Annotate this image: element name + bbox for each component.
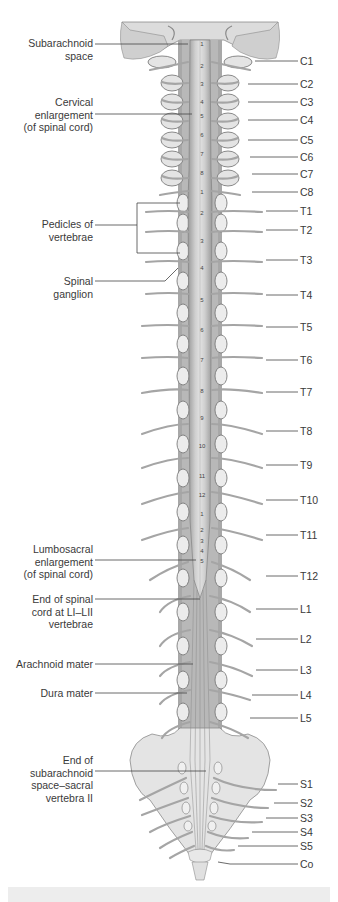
nerve-label-t1: T1 <box>300 205 312 218</box>
nerve-label-t9: T9 <box>300 459 312 472</box>
label-line: Arachnoid mater <box>16 658 93 671</box>
nerve-label-c5: C5 <box>300 134 313 147</box>
nerve-label-t2: T2 <box>300 224 312 237</box>
label-cervical-enlargement: Cervical enlargement (of spinal cord) <box>24 96 93 134</box>
svg-text:11: 11 <box>199 473 206 479</box>
nerve-label-s4: S4 <box>300 826 313 839</box>
label-line: vertebrae <box>32 618 93 631</box>
label-line: vertebrae <box>42 231 93 244</box>
label-line: space–sacral <box>30 779 93 792</box>
label-subarachnoid-space: Subarachnoid space <box>28 37 93 62</box>
label-line: vertebra II <box>30 792 93 805</box>
nerve-label-c2: C2 <box>300 78 313 91</box>
label-line: space <box>28 50 93 63</box>
nerve-label-c3: C3 <box>300 96 313 109</box>
nerve-label-l3: L3 <box>300 664 312 677</box>
label-dura-mater: Dura mater <box>40 687 93 700</box>
nerve-label-l1: L1 <box>300 603 312 616</box>
label-line: Subarachnoid <box>28 37 93 50</box>
nerve-label-t10: T10 <box>300 494 318 507</box>
svg-text:10: 10 <box>199 443 206 449</box>
label-line: End of spinal <box>32 593 93 606</box>
nerve-label-t11: T11 <box>300 529 317 542</box>
nerve-label-l2: L2 <box>300 633 312 646</box>
label-line: (of spinal cord) <box>24 568 93 581</box>
label-line: End of <box>30 754 93 767</box>
nerve-label-s2: S2 <box>300 797 313 810</box>
nerve-label-s1: S1 <box>300 778 313 791</box>
nerve-label-t6: T6 <box>300 354 312 367</box>
label-line: (of spinal cord) <box>24 121 93 134</box>
caption-bar <box>8 887 330 902</box>
nerve-label-c8: C8 <box>300 186 313 199</box>
label-spinal-ganglion: Spinal ganglion <box>53 275 93 300</box>
nerve-label-co: Co <box>300 858 313 871</box>
spinal-cord-diagram: 123 456 78 123 456 789 101112 123 45 <box>0 0 338 902</box>
nerve-label-t5: T5 <box>300 321 312 334</box>
nerve-label-s3: S3 <box>300 812 313 825</box>
label-line: enlargement <box>24 109 93 122</box>
label-line: Pedicles of <box>42 218 93 231</box>
nerve-label-s5: S5 <box>300 840 313 853</box>
label-line: Lumbosacral <box>24 543 93 556</box>
svg-text:12: 12 <box>199 492 206 498</box>
nerve-label-t12: T12 <box>300 570 318 583</box>
nerve-label-t8: T8 <box>300 425 312 438</box>
nerve-label-l5: L5 <box>300 712 312 725</box>
label-line: Dura mater <box>40 687 93 700</box>
label-line: subarachnoid <box>30 767 93 780</box>
nerve-label-c4: C4 <box>300 114 313 127</box>
nerve-label-c1: C1 <box>300 55 313 68</box>
label-lumbosacral-enlargement: Lumbosacral enlargement (of spinal cord) <box>24 543 93 581</box>
label-line: ganglion <box>53 288 93 301</box>
nerve-label-l4: L4 <box>300 689 312 702</box>
label-line: enlargement <box>24 556 93 569</box>
label-end-of-spinal-cord: End of spinal cord at LI–LII vertebrae <box>32 593 93 631</box>
label-line: Spinal <box>53 275 93 288</box>
nerve-label-t4: T4 <box>300 289 312 302</box>
label-pedicles-of-vertebrae: Pedicles of vertebrae <box>42 218 93 243</box>
label-line: cord at LI–LII <box>32 606 93 619</box>
nerve-label-c7: C7 <box>300 168 313 181</box>
label-arachnoid-mater: Arachnoid mater <box>16 658 93 671</box>
nerve-label-t7: T7 <box>300 386 312 399</box>
label-end-of-subarachnoid-space: End of subarachnoid space–sacral vertebr… <box>30 754 93 804</box>
nerve-label-t3: T3 <box>300 254 312 267</box>
nerve-label-c6: C6 <box>300 151 313 164</box>
label-line: Cervical <box>24 96 93 109</box>
